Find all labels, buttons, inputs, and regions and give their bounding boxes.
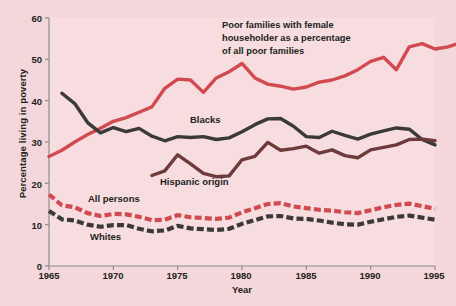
- series-label-all-persons: All persons: [88, 193, 140, 204]
- series-label-blacks: Blacks: [190, 114, 221, 125]
- x-tick-1985: 1985: [284, 270, 328, 281]
- y-tick-30: 30: [14, 137, 42, 148]
- x-tick-1995: 1995: [412, 270, 456, 281]
- x-tick-1970: 1970: [91, 270, 135, 281]
- x-axis-label: Year: [49, 284, 435, 295]
- y-tick-10: 10: [14, 220, 42, 231]
- x-tick-1965: 1965: [27, 270, 71, 281]
- y-tick-20: 20: [14, 179, 42, 190]
- y-tick-60: 60: [14, 13, 42, 24]
- x-tick-1980: 1980: [219, 270, 263, 281]
- x-tick-1990: 1990: [348, 270, 392, 281]
- series-label-whites: Whites: [90, 231, 121, 242]
- y-tick-50: 50: [14, 54, 42, 65]
- annotation-line-1: Poor families with female: [222, 19, 412, 32]
- x-tick-1975: 1975: [155, 270, 199, 281]
- female-householder-annotation: Poor families with female householder as…: [222, 19, 412, 59]
- series-line-female-householder: [49, 43, 456, 157]
- series-label-hispanic: Hispanic origin: [160, 176, 229, 187]
- annotation-line-2: householder as a percentage: [222, 32, 412, 45]
- series-line-hispanic-origin: [152, 139, 435, 177]
- annotation-line-3: of all poor families: [222, 45, 412, 58]
- y-tick-40: 40: [14, 96, 42, 107]
